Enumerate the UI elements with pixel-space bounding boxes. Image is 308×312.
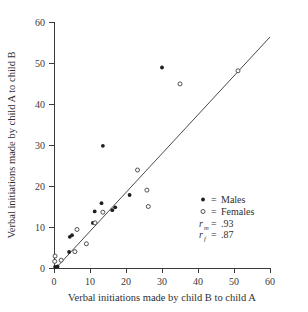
x-tick-label-10: 10 xyxy=(85,276,95,287)
y-tick-label-0: 0 xyxy=(40,263,45,274)
data-point-male xyxy=(101,144,105,148)
x-axis-title: Verbal initiations made by child B to ch… xyxy=(68,292,256,303)
x-tick-label-30: 30 xyxy=(157,276,167,287)
data-point-male xyxy=(70,233,74,237)
data-point-female xyxy=(101,210,105,214)
data-point-female xyxy=(53,259,57,263)
y-tick-label-50: 50 xyxy=(35,58,45,69)
x-tick-label-0: 0 xyxy=(52,276,57,287)
data-point-male xyxy=(100,201,104,205)
legend-r-males-value: .93 xyxy=(221,218,234,229)
legend-r-females-value: .87 xyxy=(221,229,234,240)
data-point-male xyxy=(160,66,164,70)
data-point-male xyxy=(93,210,97,214)
data-point-female xyxy=(145,188,149,192)
series-males xyxy=(53,66,164,269)
scatter-plot-figure: 0 10 20 30 40 50 60 0 10 20 30 40 50 60 … xyxy=(0,0,308,312)
data-point-male xyxy=(56,265,60,269)
legend-equals-males: = xyxy=(211,194,217,205)
data-point-female xyxy=(73,250,77,254)
y-tick-label-30: 30 xyxy=(35,140,45,151)
y-tick-label-60: 60 xyxy=(35,17,45,28)
y-tick-label-20: 20 xyxy=(35,181,45,192)
y-tick-label-10: 10 xyxy=(35,222,45,233)
legend-label-females: Females xyxy=(221,206,254,217)
legend-r-males-symbol: r xyxy=(199,218,203,229)
y-tick-label-40: 40 xyxy=(35,99,45,110)
x-tick-label-60: 60 xyxy=(265,276,275,287)
plot-canvas: 0 10 20 30 40 50 60 0 10 20 30 40 50 60 … xyxy=(0,0,308,312)
legend-r-females-subscript: f xyxy=(204,235,207,242)
data-point-female xyxy=(146,205,150,209)
data-point-female xyxy=(136,168,140,172)
data-point-female xyxy=(93,221,97,225)
legend-r-females-symbol: r xyxy=(199,229,203,240)
y-axis-ticks: 0 10 20 30 40 50 60 xyxy=(35,17,54,274)
legend-r-males-equals: = xyxy=(211,218,217,229)
legend-equals-females: = xyxy=(211,206,217,217)
legend: = Males = Females r m = .93 r f = .87 xyxy=(199,194,254,242)
data-point-female xyxy=(53,254,57,258)
legend-marker-males-icon xyxy=(201,198,205,202)
x-tick-label-40: 40 xyxy=(193,276,203,287)
legend-marker-females-icon xyxy=(201,210,205,214)
legend-label-males: Males xyxy=(221,194,246,205)
y-axis-title: Verbal initiations made by child A to ch… xyxy=(6,51,17,238)
legend-r-males-subscript: m xyxy=(204,224,209,231)
data-point-female xyxy=(75,228,79,232)
data-point-male xyxy=(128,193,132,197)
data-point-female xyxy=(236,69,240,73)
data-point-female xyxy=(59,258,63,262)
data-point-male xyxy=(113,205,117,209)
data-point-male xyxy=(67,250,71,254)
x-tick-label-50: 50 xyxy=(229,276,239,287)
legend-r-females-equals: = xyxy=(211,229,217,240)
axes-group xyxy=(54,22,270,268)
x-tick-label-20: 20 xyxy=(121,276,131,287)
data-point-female xyxy=(178,82,182,86)
x-axis-ticks: 0 10 20 30 40 50 60 xyxy=(52,268,276,287)
data-point-female xyxy=(84,242,88,246)
data-point-male xyxy=(110,208,114,212)
